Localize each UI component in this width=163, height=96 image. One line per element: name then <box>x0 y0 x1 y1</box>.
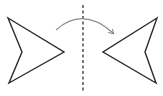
reflected-arrowhead-shape <box>103 18 157 83</box>
original-arrowhead-shape <box>8 18 64 83</box>
reflection-diagram: Arrowhead shape reflected across a verti… <box>0 0 163 96</box>
diagram-canvas <box>0 0 163 96</box>
reflection-arc-arrow-icon <box>56 19 113 33</box>
